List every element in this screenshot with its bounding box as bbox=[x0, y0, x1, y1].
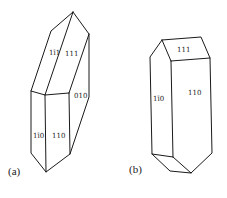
face-label-010-a: 010 bbox=[74, 92, 87, 100]
face-label-1bar10-a: 1ī0 bbox=[33, 132, 44, 140]
face-label-110-a: 110 bbox=[52, 132, 65, 140]
crystal-b-top-front-edge bbox=[162, 40, 171, 61]
face-label-111-b: 111 bbox=[177, 46, 190, 54]
face-label-1bar10-b: 1ī0 bbox=[153, 95, 164, 103]
crystal-b-outline bbox=[150, 37, 212, 173]
panel-label-a: (a) bbox=[8, 165, 21, 178]
crystal-b-prism-edge bbox=[171, 61, 173, 157]
crystal-b-bottom-diag bbox=[173, 157, 191, 173]
crystal-a-prism-edge bbox=[45, 95, 46, 172]
face-label-111-a: 111 bbox=[65, 50, 78, 58]
face-label-110-b: 110 bbox=[188, 89, 201, 97]
crystal-diagram: 1ī1 111 010 1ī0 110 (a) 111 1ī0 110 (b) bbox=[0, 0, 227, 198]
crystal-a: 1ī1 111 010 1ī0 110 (a) bbox=[8, 12, 89, 178]
crystal-b: 111 1ī0 110 (b) bbox=[129, 37, 212, 176]
panel-label-b: (b) bbox=[129, 163, 142, 176]
crystal-a-edge-111-010 bbox=[69, 34, 89, 93]
face-label-1bar11-a: 1ī1 bbox=[49, 49, 60, 57]
crystal-b-top-edge bbox=[171, 58, 210, 61]
crystal-a-prism-edge-right bbox=[69, 93, 70, 154]
crystal-a-waist bbox=[31, 91, 69, 95]
